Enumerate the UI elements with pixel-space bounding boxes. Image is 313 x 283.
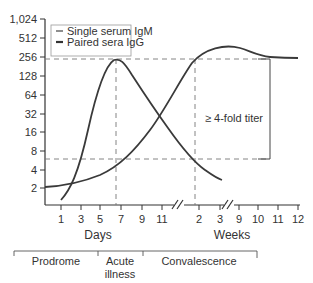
x-tick-label: 9 bbox=[236, 213, 242, 225]
x-tick-label: 5 bbox=[97, 213, 103, 225]
x-tick-label: 3 bbox=[78, 213, 84, 225]
y-tick-label: 2 bbox=[31, 182, 37, 194]
x-tick-label: 2 bbox=[196, 213, 202, 225]
x-tick-label: 1 bbox=[58, 213, 64, 225]
legend-igg-label: Paired sera IgG bbox=[67, 36, 144, 48]
y-tick-label: 64 bbox=[25, 89, 37, 101]
x-axis-title-weeks: Weeks bbox=[214, 228, 250, 242]
y-tick-label: 32 bbox=[25, 108, 37, 120]
y-tick-label: 128 bbox=[19, 70, 37, 82]
y-tick-label: 256 bbox=[19, 51, 37, 63]
x-tick-label: 7 bbox=[118, 213, 124, 225]
x-axis: 1 3 5 7 9 11 2 3 9 10 11 12 Days Weeks bbox=[45, 200, 304, 242]
y-tick-label: 16 bbox=[25, 126, 37, 138]
phase-prodrome: Prodrome bbox=[32, 255, 80, 267]
bracket-label: ≥ 4-fold titer bbox=[205, 112, 263, 124]
y-tick-label: 8 bbox=[31, 145, 37, 157]
x-tick-label: 9 bbox=[139, 213, 145, 225]
phase-convalescence: Convalescence bbox=[161, 255, 236, 267]
y-tick-label: 512 bbox=[19, 32, 37, 44]
x-tick-label: 11 bbox=[272, 213, 283, 225]
x-tick-label: 12 bbox=[292, 213, 304, 225]
legend: Single serum IgM Paired sera IgG bbox=[51, 25, 153, 56]
y-axis: 1,024 512 256 128 64 32 16 8 4 2 bbox=[9, 13, 45, 205]
igm-curve bbox=[61, 60, 222, 200]
phase-bar: Prodrome Acute illness Convalescence bbox=[14, 251, 257, 280]
y-tick-label: 1,024 bbox=[9, 13, 37, 25]
y-tick-label: 4 bbox=[31, 164, 37, 176]
antibody-titer-chart: 1,024 512 256 128 64 32 16 8 4 2 bbox=[0, 0, 313, 283]
phase-acute-line2: illness bbox=[105, 268, 136, 280]
x-axis-title-days: Days bbox=[84, 228, 111, 242]
x-tick-label: 11 bbox=[156, 213, 167, 225]
x-tick-label: 3 bbox=[217, 213, 223, 225]
dashed-guides bbox=[45, 59, 270, 205]
x-tick-label: 10 bbox=[252, 213, 264, 225]
fourfold-bracket: ≥ 4-fold titer bbox=[205, 59, 270, 159]
phase-acute-line1: Acute bbox=[106, 255, 134, 267]
